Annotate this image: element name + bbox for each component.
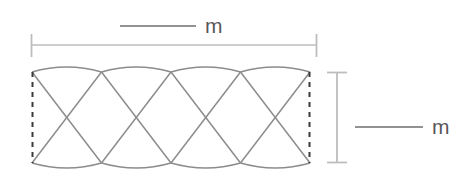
height-label-group: m bbox=[355, 115, 450, 138]
height-label-text: m bbox=[432, 115, 450, 138]
top-arc-1 bbox=[32, 67, 102, 72]
bottom-arc-2 bbox=[102, 163, 172, 168]
width-label-group: m bbox=[120, 14, 223, 37]
pattern-diagonal-lines bbox=[32, 72, 310, 163]
top-arc-2 bbox=[102, 67, 172, 72]
bottom-arc-4 bbox=[241, 163, 311, 168]
pattern-bottom-arcs bbox=[32, 163, 310, 168]
bottom-arc-3 bbox=[171, 163, 241, 168]
bottom-arc-1 bbox=[32, 163, 102, 168]
height-dimension-group bbox=[327, 72, 347, 163]
technical-diagram: m bbox=[0, 0, 470, 183]
top-arc-3 bbox=[171, 67, 241, 72]
width-label-text: m bbox=[205, 14, 223, 37]
width-dimension-group bbox=[31, 34, 317, 57]
top-arc-4 bbox=[241, 67, 311, 72]
pattern-band-group bbox=[32, 67, 310, 168]
diagram-container: m bbox=[0, 0, 470, 183]
pattern-top-arcs bbox=[32, 67, 310, 72]
